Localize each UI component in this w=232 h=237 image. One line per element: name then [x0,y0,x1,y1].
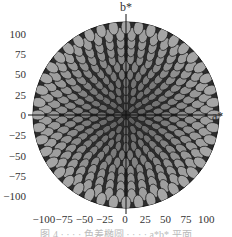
y-tick-label: 0 [21,109,27,121]
x-tick-label: −100 [32,213,55,225]
y-tick-label: 25 [15,89,27,101]
x-tick-label: −25 [96,213,114,225]
y-tick-label: −75 [9,170,27,182]
y-tick-label: −100 [3,190,26,202]
y-tick-label: −25 [9,129,27,141]
x-tick-label: 0 [122,213,128,225]
y-tick-label: −50 [9,150,27,162]
x-axis-label: a* [212,109,223,123]
x-tick-label: 100 [198,213,215,225]
y-tick-label: 75 [15,48,27,60]
x-tick-label: 75 [180,213,192,225]
x-tick-label: −75 [55,213,73,225]
y-tick-label: 100 [10,28,27,40]
x-tick-label: 25 [140,213,152,225]
x-tick-label: −50 [76,213,94,225]
y-tick-label: 50 [15,68,27,80]
x-tick-label: 50 [160,213,172,225]
figure-caption: 图 4 · · · · 色差椭圆 · · · · a*b* 平面 [0,226,232,237]
y-axis-label: b* [120,0,132,14]
chart: 1007550250−25−50−75−100−100−75−50−250255… [0,0,232,237]
